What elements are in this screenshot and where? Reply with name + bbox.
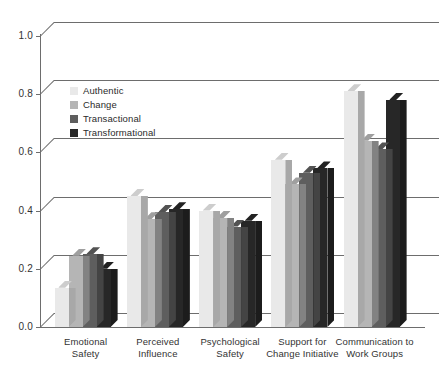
x-axis-category-label-line: Work Groups [319,348,431,360]
bar-side-face [97,254,104,327]
y-axis-tick-label: 1.0 [7,30,33,41]
legend-item[interactable]: Change [70,98,156,111]
bar [344,91,358,327]
gridline-riser [40,139,55,154]
bar-top-face [86,247,100,254]
bar [127,196,141,327]
bar-chart: 0.00.20.40.60.81.0 EmotionalSafetyPercei… [0,0,439,384]
bar-front-face [55,288,69,327]
bar-side-face [213,211,220,327]
gridline-riser [40,197,55,212]
legend-item[interactable]: Authentic [70,84,156,97]
bar-side-face [400,100,407,327]
y-axis-tick-label: 0.8 [7,88,33,99]
bar-side-face [83,256,90,327]
gridline-riser [40,255,55,270]
legend-swatch-icon [70,101,78,109]
bar-front-face [271,160,285,327]
bar-top-face [275,153,289,160]
x-axis-category-label-line: Communication to [319,336,431,348]
legend-swatch-icon [70,129,78,137]
bar-front-face [344,91,358,327]
bar-side-face [227,218,234,327]
bar-side-face [155,219,162,327]
legend-swatch-icon [70,115,78,123]
legend-item[interactable]: Transactional [70,112,156,125]
legend-item-label: Authentic [83,85,124,96]
bar-side-face [358,91,365,327]
gridline [54,80,439,81]
y-axis-tick-label: 0.6 [7,146,33,157]
bar-side-face [169,212,176,327]
bar-side-face [327,168,334,327]
bar-top-face [245,214,259,221]
bar [199,211,213,327]
legend: AuthenticChangeTransactionalTransformati… [70,84,156,140]
bar-side-face [299,184,306,327]
bar-side-face [255,221,262,327]
bar-top-face [172,202,186,209]
gridline-riser [40,313,55,328]
legend-swatch-icon [70,87,78,95]
bar-side-face [313,173,320,327]
bar-front-face [127,196,141,327]
bar-top-face [347,84,361,91]
bar-side-face [111,269,118,327]
bar-top-face [130,189,144,196]
bar [55,288,69,327]
y-axis-line [40,34,41,328]
bar-top-face [317,161,331,168]
bar-side-face [372,141,379,327]
bar-side-face [241,227,248,327]
legend-item-label: Transactional [83,113,141,124]
y-axis-tick-label: 0.4 [7,205,33,216]
legend-item-label: Change [83,99,117,110]
legend-item-label: Transformational [83,127,156,138]
gridline [54,22,439,23]
legend-item[interactable]: Transformational [70,126,156,139]
y-axis-tick-label: 0.0 [7,321,33,332]
bar [271,160,285,327]
gridline-riser [40,22,55,37]
x-axis-category-label: Communication toWork Groups [319,336,431,360]
gridline-riser [40,80,55,95]
bar-front-face [199,211,213,327]
bar-side-face [183,209,190,327]
bar-top-face [389,93,403,100]
bar-side-face [285,160,292,327]
y-axis-tick-label: 0.2 [7,263,33,274]
floor-front-edge [40,327,425,328]
bar-side-face [141,196,148,327]
bar-top-face [203,204,217,211]
bar-side-face [386,149,393,327]
